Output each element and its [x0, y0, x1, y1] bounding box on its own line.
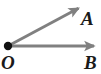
ray-label-A: A [81, 9, 94, 28]
ray-label-B: B [84, 53, 97, 72]
ray-OA-group [8, 8, 79, 46]
vertex-point-O [4, 42, 12, 50]
ray-OA-line [8, 8, 79, 46]
angle-diagram: O A B [0, 0, 101, 74]
vertex-label-O: O [1, 53, 15, 72]
